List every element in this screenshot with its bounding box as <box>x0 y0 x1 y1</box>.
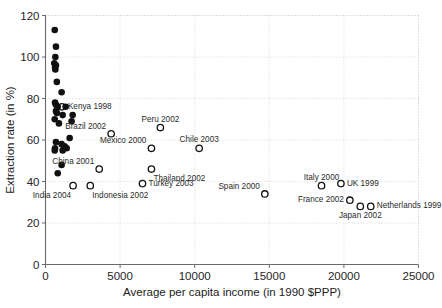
data-point-label: Chile 2003 <box>180 135 220 144</box>
x-tick-label: 5000 <box>107 270 133 282</box>
y-tick-label: 120 <box>20 10 39 22</box>
y-axis-ticks: 020406080100120 <box>20 10 45 271</box>
data-point-filled[interactable] <box>69 112 76 119</box>
data-point-filled[interactable] <box>54 110 61 117</box>
data-point-filled[interactable] <box>53 139 60 146</box>
x-axis-title: Average per capita income (in 1990 $PPP) <box>123 286 341 298</box>
x-tick-label: 15000 <box>253 270 285 282</box>
scatter-plot: 0500010000150002000025000020406080100120… <box>0 0 442 308</box>
data-point-filled[interactable] <box>59 147 66 154</box>
x-axis-ticks: 0500010000150002000025000 <box>42 265 434 282</box>
y-tick-label: 60 <box>27 134 40 146</box>
data-point-filled[interactable] <box>59 112 66 119</box>
data-point-label: France 2002 <box>298 195 344 204</box>
data-point-label: Spain 2000 <box>218 182 260 191</box>
data-point-label: Indonesia 2002 <box>92 191 148 200</box>
y-axis-title: Extraction rate (in %) <box>4 86 16 194</box>
data-point-label: Mexico 2000 <box>100 136 147 145</box>
y-tick-label: 0 <box>33 259 39 271</box>
y-tick-label: 80 <box>27 93 40 105</box>
data-point-label: Japan 2002 <box>339 211 382 220</box>
data-point-label: Netherlands 1999 <box>377 201 442 210</box>
data-point-label: Peru 2002 <box>141 115 179 124</box>
data-point-filled[interactable] <box>51 147 58 154</box>
data-point-filled[interactable] <box>52 66 59 73</box>
data-point-filled[interactable] <box>54 170 61 177</box>
data-point-filled[interactable] <box>54 79 61 86</box>
data-point-label: UK 1999 <box>347 179 379 188</box>
x-tick-label: 0 <box>42 270 48 282</box>
x-tick-label: 20000 <box>328 270 360 282</box>
x-tick-label: 10000 <box>179 270 211 282</box>
data-point-label: Brazil 2002 <box>65 122 106 131</box>
data-point-label: Italy 2000 <box>304 173 340 182</box>
y-tick-label: 40 <box>27 176 40 188</box>
x-tick-label: 25000 <box>403 270 435 282</box>
data-point-label: China 2001 <box>52 157 94 166</box>
data-point-filled[interactable] <box>52 54 59 61</box>
data-point-label: India 2004 <box>33 191 72 200</box>
data-point-label: Turkey 2003 <box>148 179 194 188</box>
data-point-filled[interactable] <box>56 120 63 127</box>
y-tick-label: 100 <box>20 51 39 63</box>
y-tick-label: 20 <box>27 217 40 229</box>
data-point-filled[interactable] <box>53 43 60 50</box>
data-point-filled[interactable] <box>51 27 58 34</box>
chart-figure: 0500010000150002000025000020406080100120… <box>0 0 442 308</box>
data-point-label: Kenya 1998 <box>68 102 112 111</box>
data-point-filled[interactable] <box>58 89 65 96</box>
data-point-filled[interactable] <box>66 135 73 142</box>
